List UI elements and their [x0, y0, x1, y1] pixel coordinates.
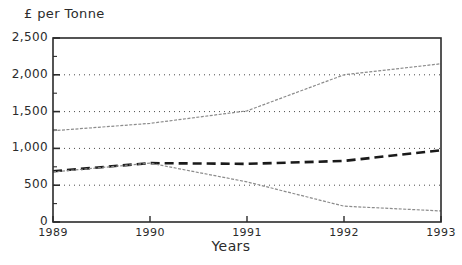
x-axis-title: Years	[0, 238, 462, 254]
data-series-layer	[53, 64, 441, 211]
y-tick-label: 500	[2, 177, 48, 191]
gridlines	[54, 75, 440, 185]
y-tick-label: 1,500	[2, 104, 48, 118]
series-line-upper-series	[53, 64, 441, 131]
axis-ticks	[53, 38, 441, 222]
series-line-middle-series	[53, 150, 441, 171]
series-line-lower-series	[53, 163, 441, 211]
y-tick-label: 1,000	[2, 140, 48, 154]
y-tick-label: 2,000	[2, 67, 48, 81]
y-tick-label: 2,500	[2, 30, 48, 44]
plot-frame	[53, 38, 441, 222]
line-chart: £ per Tonne 05001,0001,5002,0002,500 198…	[0, 0, 462, 265]
